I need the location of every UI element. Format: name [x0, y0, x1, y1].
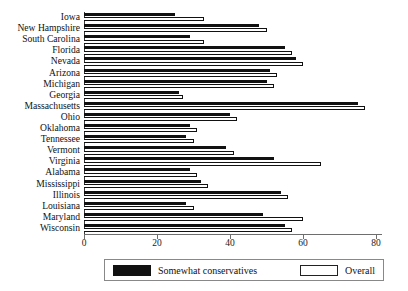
y-axis-category-label: Virginia: [49, 155, 80, 167]
chart-row: Florida: [84, 45, 376, 56]
legend-label-overall: Overall: [345, 265, 375, 276]
chart-row: Oklahoma: [84, 123, 376, 134]
chart-row: Massachusetts: [84, 101, 376, 112]
y-axis-category-label: Mississippi: [36, 178, 80, 190]
bar-overall: [84, 184, 208, 188]
bar-overall: [84, 151, 234, 155]
y-axis-category-label: Maryland: [43, 211, 80, 223]
bar-somewhat-conservatives: [84, 46, 285, 49]
bar-overall: [84, 217, 303, 221]
bar-overall: [84, 106, 365, 110]
y-axis-category-label: Illinois: [53, 189, 80, 201]
bar-overall: [84, 28, 267, 32]
legend-label-somewhat-conservatives: Somewhat conservatives: [158, 265, 257, 276]
bar-somewhat-conservatives: [84, 80, 267, 83]
y-axis-category-label: Wisconsin: [40, 222, 80, 234]
legend-entry-somewhat-conservatives: Somewhat conservatives: [113, 265, 257, 276]
x-axis-tick-label: 0: [82, 238, 87, 249]
bar-overall: [84, 84, 274, 88]
y-axis-category-label: Michigan: [43, 78, 80, 90]
bar-somewhat-conservatives: [84, 13, 175, 16]
y-axis-category-label: Iowa: [61, 11, 80, 23]
x-axis-tick-label: 20: [152, 238, 162, 249]
bar-somewhat-conservatives: [84, 57, 296, 60]
chart-row: Michigan: [84, 79, 376, 90]
bar-overall: [84, 162, 321, 166]
y-axis-category-label: Alabama: [45, 166, 80, 178]
y-axis-category-label: Vermont: [47, 144, 80, 156]
y-axis-category-label: Ohio: [61, 111, 80, 123]
chart-row: Nevada: [84, 56, 376, 67]
chart-row: Tennessee: [84, 134, 376, 145]
bar-somewhat-conservatives: [84, 202, 186, 205]
y-axis-category-label: Tennessee: [41, 133, 80, 145]
y-axis-category-label: Oklahoma: [40, 122, 80, 134]
x-axis-tick-label: 60: [298, 238, 308, 249]
bar-overall: [84, 195, 288, 199]
y-axis-category-label: Massachusetts: [25, 100, 80, 112]
bar-overall: [84, 128, 197, 132]
chart-row: South Carolina: [84, 34, 376, 45]
bar-overall: [84, 40, 204, 44]
chart-row: Wisconsin: [84, 223, 376, 234]
chart-row: Ohio: [84, 112, 376, 123]
bar-overall: [84, 17, 204, 21]
bar-somewhat-conservatives: [84, 224, 285, 227]
y-axis-category-label: South Carolina: [22, 33, 80, 45]
bar-overall: [84, 51, 292, 55]
x-axis-line: [84, 234, 382, 235]
chart-row: Georgia: [84, 90, 376, 101]
plot-area: IowaNew HampshireSouth CarolinaFloridaNe…: [84, 12, 376, 234]
chart-row: New Hampshire: [84, 23, 376, 34]
chart-row: Louisiana: [84, 201, 376, 212]
y-axis-category-label: Georgia: [49, 89, 80, 101]
bar-somewhat-conservatives: [84, 168, 190, 171]
x-axis-tick-label: 80: [371, 238, 381, 249]
bar-overall: [84, 73, 277, 77]
legend-swatch-somewhat-conservatives: [113, 265, 151, 276]
bar-somewhat-conservatives: [84, 146, 226, 149]
bar-somewhat-conservatives: [84, 69, 270, 72]
bar-somewhat-conservatives: [84, 91, 179, 94]
bar-overall: [84, 206, 194, 210]
chart-row: Mississippi: [84, 179, 376, 190]
legend-entry-overall: Overall: [300, 265, 375, 276]
y-axis-category-label: New Hampshire: [17, 22, 80, 34]
y-axis-category-label: Arizona: [49, 67, 80, 79]
bar-overall: [84, 117, 237, 121]
bar-somewhat-conservatives: [84, 180, 201, 183]
y-axis-category-label: Florida: [52, 44, 80, 56]
chart-row: Maryland: [84, 212, 376, 223]
chart-row: Virginia: [84, 156, 376, 167]
bar-overall: [84, 95, 183, 99]
x-axis-tick-label: 40: [225, 238, 235, 249]
bar-overall: [84, 228, 292, 232]
bar-somewhat-conservatives: [84, 213, 263, 216]
chart-row: Illinois: [84, 190, 376, 201]
bar-overall: [84, 62, 303, 66]
bar-somewhat-conservatives: [84, 113, 230, 116]
chart-row: Alabama: [84, 167, 376, 178]
bar-somewhat-conservatives: [84, 135, 186, 138]
legend-swatch-overall: [300, 265, 338, 276]
bar-somewhat-conservatives: [84, 35, 190, 38]
bar-somewhat-conservatives: [84, 157, 274, 160]
bar-somewhat-conservatives: [84, 124, 190, 127]
bar-somewhat-conservatives: [84, 24, 259, 27]
bar-somewhat-conservatives: [84, 102, 358, 105]
chart-row: Iowa: [84, 12, 376, 23]
bar-overall: [84, 173, 197, 177]
chart-row: Arizona: [84, 68, 376, 79]
y-axis-category-label: Nevada: [51, 55, 80, 67]
chart-row: Vermont: [84, 145, 376, 156]
bar-overall: [84, 139, 194, 143]
bar-somewhat-conservatives: [84, 191, 281, 194]
horizontal-bar-chart: IowaNew HampshireSouth CarolinaFloridaNe…: [0, 0, 408, 291]
y-axis-category-label: Louisiana: [42, 200, 80, 212]
chart-legend: Somewhat conservatives Overall: [104, 259, 384, 281]
